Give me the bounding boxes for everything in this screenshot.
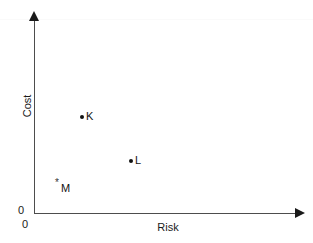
y-axis-arrowhead-icon (29, 11, 39, 21)
faint-top-line (0, 19, 313, 20)
y-axis-origin-label: 0 (18, 204, 24, 216)
y-axis-line (34, 20, 35, 214)
data-point-label: K (86, 110, 93, 122)
y-axis-title: Cost (21, 86, 33, 126)
data-point-label: L (135, 154, 141, 166)
point-marker-icon (80, 115, 84, 119)
point-marker-icon (129, 159, 133, 163)
x-axis-line (34, 213, 297, 214)
x-axis-title: Risk (140, 221, 196, 233)
point-marker-asterisk-icon: * (55, 178, 59, 188)
x-axis-arrowhead-icon (295, 208, 305, 218)
x-axis-origin-label: 0 (22, 218, 28, 230)
scatter-chart-canvas: Cost Risk 0 0 K L * M (0, 0, 313, 243)
data-point-label: M (61, 182, 70, 194)
